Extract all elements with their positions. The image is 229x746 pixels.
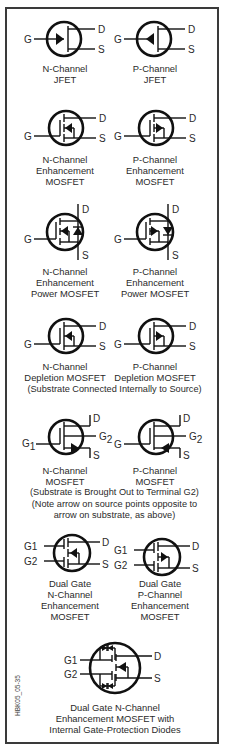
svg-text:D: D [192, 541, 199, 552]
g2-note-line-1: (Substrate is Brought Out to Terminal G2… [0, 487, 229, 498]
n-channel-enhancement-power-mosfet-symbol: D G S [20, 200, 110, 265]
svg-text:D: D [189, 321, 196, 332]
dual-gate-protected-mosfet-caption: Dual Gate N-ChannelEnhancement MOSFET wi… [40, 702, 190, 735]
svg-text:D: D [82, 204, 89, 215]
n-channel-depletion-mosfet-caption: N-ChannelDepletion MOSFET [20, 361, 110, 383]
n-channel-mosfet-g2-caption: N-ChannelMOSFET [30, 465, 100, 487]
svg-text:S: S [188, 44, 195, 55]
n-channel-enhancement-mosfet-symbol: G D S [20, 103, 110, 153]
svg-text:G: G [114, 439, 122, 450]
svg-text:S: S [172, 250, 179, 261]
svg-text:D: D [172, 204, 179, 215]
g2-note-line-3: arrow on substrate, as above) [0, 510, 229, 521]
svg-text:D: D [183, 413, 190, 424]
svg-text:D: D [99, 321, 106, 332]
n-channel-enhancement-power-mosfet-caption: N-ChannelEnhancementPower MOSFET [25, 266, 105, 299]
dual-gate-protected-mosfet-symbol: G1 G2 D S [60, 640, 170, 700]
svg-text:G: G [24, 34, 32, 45]
dual-gate-n-channel-mosfet-symbol: G1 G2 D S [20, 528, 110, 578]
svg-text:G2: G2 [64, 669, 78, 680]
n-channel-enhancement-mosfet-caption: N-ChannelEnhancementMOSFET [25, 154, 105, 187]
svg-text:S: S [98, 44, 105, 55]
p-channel-jfet-caption: P-ChannelJFET [120, 63, 190, 85]
svg-text:D: D [154, 651, 161, 662]
svg-text:S: S [189, 341, 196, 352]
p-channel-jfet-symbol: G D S [110, 14, 200, 64]
svg-text:D: D [98, 24, 105, 35]
svg-text:D: D [188, 24, 195, 35]
n-channel-jfet-caption: N-ChannelJFET [30, 63, 100, 85]
svg-text:D: D [102, 537, 109, 548]
svg-text:D: D [189, 113, 196, 124]
p-channel-enhancement-mosfet-caption: P-ChannelEnhancementMOSFET [115, 154, 195, 187]
svg-text:G2: G2 [24, 556, 38, 567]
svg-text:D: D [93, 413, 100, 424]
svg-text:S: S [82, 250, 89, 261]
svg-text:S: S [102, 559, 109, 570]
svg-text:G: G [24, 234, 32, 245]
p-channel-enhancement-power-mosfet-symbol: D G S [110, 200, 200, 265]
svg-text:G: G [24, 339, 32, 350]
svg-text:S: S [189, 133, 196, 144]
p-channel-enhancement-power-mosfet-caption: P-ChannelEnhancementPower MOSFET [115, 266, 195, 299]
p-channel-mosfet-g2-symbol: D G2 G S [110, 412, 200, 467]
svg-text:G1: G1 [24, 541, 38, 552]
svg-text:S: S [99, 133, 106, 144]
n-channel-mosfet-g2-symbol: D G2 G1 S [20, 412, 110, 467]
p-channel-mosfet-g2-caption: P-ChannelMOSFET [120, 465, 190, 487]
svg-text:S: S [154, 673, 161, 684]
svg-text:G: G [114, 131, 122, 142]
figure-code: HBK05_05-35 [14, 675, 21, 716]
svg-text:D: D [99, 113, 106, 124]
p-channel-enhancement-mosfet-symbol: G D S [110, 103, 200, 153]
svg-text:G: G [114, 234, 122, 245]
svg-text:G: G [114, 339, 122, 350]
dual-gate-p-channel-mosfet-symbol: G1 G2 D S [110, 528, 200, 583]
n-channel-depletion-mosfet-symbol: G D S [20, 312, 110, 362]
dual-gate-p-channel-mosfet-caption: Dual GateP-ChannelEnhancementMOSFET [120, 578, 200, 622]
p-channel-depletion-mosfet-symbol: G D S [110, 312, 200, 362]
svg-text:G1: G1 [22, 438, 36, 452]
n-channel-jfet-symbol: G D S [20, 14, 110, 64]
svg-text:G2: G2 [189, 431, 203, 445]
svg-text:S: S [93, 450, 100, 461]
p-channel-depletion-mosfet-caption: P-ChannelDepletion MOSFET [110, 361, 200, 383]
g2-note-line-2: (Note arrow on source points opposite to [0, 499, 229, 510]
svg-text:G: G [24, 131, 32, 142]
svg-text:G2: G2 [114, 560, 128, 571]
depletion-note: (Substrate Connected Internally to Sourc… [0, 384, 229, 395]
svg-text:S: S [183, 450, 190, 461]
svg-text:S: S [192, 563, 199, 574]
dual-gate-n-channel-mosfet-caption: Dual GateN-ChannelEnhancementMOSFET [30, 578, 110, 622]
svg-text:S: S [99, 341, 106, 352]
svg-text:G: G [114, 34, 122, 45]
svg-text:G1: G1 [114, 545, 128, 556]
svg-text:G1: G1 [64, 655, 78, 666]
